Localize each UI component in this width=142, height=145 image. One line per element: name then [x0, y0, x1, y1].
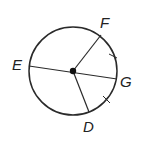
- diagram-canvas: E F G D: [0, 0, 142, 145]
- label-G: G: [120, 73, 132, 90]
- label-F: F: [100, 14, 110, 31]
- radius-to-D: [73, 71, 89, 112]
- label-E: E: [12, 56, 23, 73]
- tick-mark-arc-FG: [109, 54, 117, 58]
- center-point: [70, 68, 76, 74]
- circle-diagram: E F G D: [0, 0, 142, 145]
- radius-to-F: [73, 35, 101, 71]
- label-D: D: [83, 118, 94, 135]
